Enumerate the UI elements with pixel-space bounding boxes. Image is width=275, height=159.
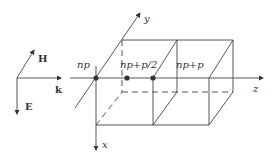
field-triad: H k E [17, 50, 63, 114]
label-np: np [77, 59, 90, 70]
y-axis-label: y [143, 13, 150, 24]
coordinate-axes: x y z [70, 13, 263, 150]
label-np-plus-p: np+p [176, 59, 204, 70]
point-np [93, 75, 98, 80]
unit-cell-box [96, 40, 233, 125]
point-np-half [124, 75, 129, 80]
h-label: H [38, 53, 47, 64]
periodic-structure-diagram: H k E x y z [0, 0, 275, 159]
h-field-arrow [17, 50, 34, 78]
e-label: E [25, 101, 33, 112]
k-label: k [55, 84, 63, 95]
x-axis-label: x [102, 139, 108, 150]
z-axis-label: z [252, 83, 259, 94]
label-np-half: np+p/2 [120, 59, 157, 70]
point-np-plus-p [150, 75, 155, 80]
